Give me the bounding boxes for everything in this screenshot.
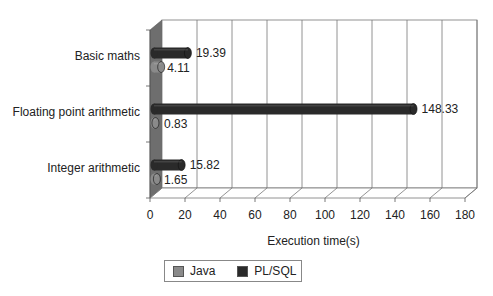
x-axis-title: Execution time(s) [267, 234, 360, 248]
legend-item-plsql: PL/SQL [237, 264, 296, 278]
plsql-value-label: 19.39 [196, 46, 226, 60]
x-tick-label: 140 [385, 208, 405, 222]
x-tick-label: 160 [420, 208, 440, 222]
legend-label-plsql: PL/SQL [254, 264, 296, 278]
java-value-label: 0.83 [164, 117, 188, 131]
legend-item-java: Java [173, 264, 215, 278]
category-label: Basic maths [75, 49, 140, 63]
java-value-label: 1.65 [164, 173, 188, 187]
plsql-value-label: 148.33 [422, 102, 459, 116]
plsql-bar-highlight [154, 105, 414, 107]
category-label: Integer arithmetic [47, 161, 140, 175]
bar-chart: 020406080100120140160180Execution time(s… [0, 0, 493, 296]
plsql-value-label: 15.82 [190, 158, 220, 172]
plsql-bar-highlight [154, 49, 188, 51]
java-value-label: 4.11 [167, 61, 190, 75]
java-bar-highlight [154, 175, 157, 177]
java-bar-highlight [154, 119, 155, 121]
legend-swatch-plsql [237, 266, 248, 277]
plsql-bar-highlight [154, 161, 182, 163]
x-tick-label: 0 [147, 208, 154, 222]
x-tick-label: 20 [178, 208, 192, 222]
x-tick-label: 180 [455, 208, 475, 222]
x-tick-label: 80 [283, 208, 297, 222]
x-tick-label: 40 [213, 208, 227, 222]
java-bar-highlight [154, 63, 161, 65]
chart-legend: Java PL/SQL [164, 260, 302, 282]
x-tick-label: 60 [248, 208, 262, 222]
category-label: Floating point arithmetic [13, 105, 140, 119]
x-tick-label: 120 [350, 208, 370, 222]
floor [150, 188, 477, 198]
legend-label-java: Java [190, 264, 215, 278]
legend-swatch-java [173, 266, 184, 277]
x-tick-label: 100 [315, 208, 335, 222]
